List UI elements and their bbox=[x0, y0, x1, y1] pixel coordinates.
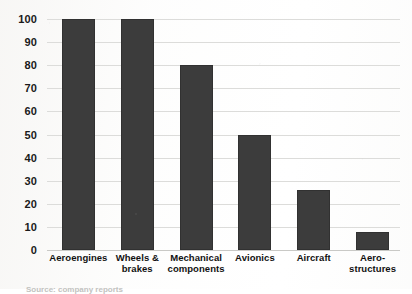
x-axis-label-1: Wheels &brakes bbox=[108, 252, 167, 274]
x-label-line: Aircraft bbox=[284, 252, 343, 263]
bars-layer bbox=[47, 19, 400, 250]
y-tick-label-50: 50 bbox=[25, 129, 37, 141]
bar bbox=[121, 19, 154, 250]
x-axis-label-5: Aero-structures bbox=[343, 252, 402, 274]
y-tick-label-60: 60 bbox=[25, 105, 37, 117]
x-label-line: components bbox=[167, 263, 226, 274]
x-label-line: Aeroengines bbox=[49, 252, 108, 263]
y-tick-label-40: 40 bbox=[25, 152, 37, 164]
x-axis-label-3: Avionics bbox=[226, 252, 285, 263]
bottom-caption: Source: company reports bbox=[26, 285, 286, 294]
bar bbox=[297, 190, 330, 250]
bar bbox=[62, 19, 95, 250]
y-tick-label-20: 20 bbox=[25, 198, 37, 210]
x-axis-label-2: Mechanicalcomponents bbox=[167, 252, 226, 274]
y-tick-label-30: 30 bbox=[25, 175, 37, 187]
gridline-0 bbox=[47, 250, 400, 251]
x-label-line: Aero- bbox=[343, 252, 402, 263]
y-tick-label-70: 70 bbox=[25, 82, 37, 94]
bar bbox=[356, 232, 389, 250]
x-label-line: structures bbox=[343, 263, 402, 274]
x-axis-label-4: Aircraft bbox=[284, 252, 343, 263]
x-axis-category-labels: AeroenginesWheels &brakesMechanicalcompo… bbox=[47, 252, 400, 282]
bar bbox=[238, 135, 271, 251]
x-label-line: Avionics bbox=[226, 252, 285, 263]
x-label-line: brakes bbox=[108, 263, 167, 274]
y-tick-label-80: 80 bbox=[25, 59, 37, 71]
y-tick-label-90: 90 bbox=[25, 36, 37, 48]
y-tick-label-100: 100 bbox=[18, 13, 37, 25]
x-label-line: Wheels & bbox=[108, 252, 167, 263]
y-axis: 0102030405060708090100 bbox=[0, 19, 42, 250]
x-axis-label-0: Aeroengines bbox=[49, 252, 108, 263]
bar bbox=[180, 65, 213, 250]
y-tick-label-10: 10 bbox=[25, 221, 37, 233]
x-label-line: Mechanical bbox=[167, 252, 226, 263]
y-tick-label-0: 0 bbox=[31, 244, 37, 256]
